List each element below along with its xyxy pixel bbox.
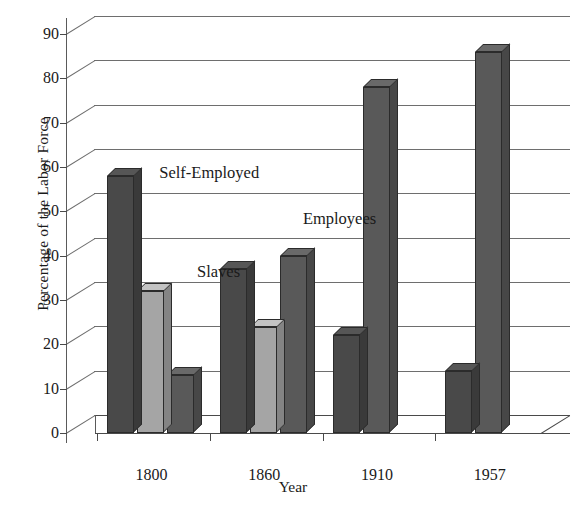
- bar-side-face: [501, 43, 510, 433]
- x-axis-title: Year: [0, 478, 586, 496]
- depth-connector: [66, 105, 96, 124]
- bar-front-face: [220, 269, 247, 433]
- bar-front-face: [107, 176, 134, 433]
- bar-self-employed-1800: [107, 176, 134, 433]
- plot-area: 0102030405060708090 Self-EmployedSlavesE…: [66, 18, 570, 443]
- y-tick-mark: [60, 34, 67, 35]
- bar-front-face: [445, 371, 472, 433]
- y-tick-label: 0: [51, 424, 59, 442]
- depth-connector: [66, 326, 96, 345]
- y-tick-label: 30: [43, 291, 59, 309]
- depth-connector: [66, 371, 96, 390]
- annotation-self-employed: Self-Employed: [159, 163, 259, 183]
- bar-side-face: [133, 167, 142, 433]
- bar-self-employed-1957: [445, 371, 472, 433]
- bar-side-face: [163, 282, 172, 433]
- y-tick-label: 70: [43, 113, 59, 131]
- bar-side-face: [246, 260, 255, 433]
- y-tick-mark: [60, 344, 67, 345]
- y-tick-mark: [60, 256, 67, 257]
- floor-right-edge: [541, 415, 571, 434]
- y-tick-label: 90: [43, 25, 59, 43]
- bar-side-face: [306, 247, 315, 433]
- annotation-employees: Employees: [303, 209, 376, 229]
- depth-connector: [66, 238, 96, 257]
- x-tick-mark: [210, 433, 211, 441]
- depth-connector: [66, 16, 96, 35]
- bar-side-face: [471, 362, 480, 433]
- bar-side-face: [193, 367, 202, 433]
- depth-connector: [66, 149, 96, 168]
- bar-chart: Percentage of the Labor Force 0102030405…: [0, 0, 586, 505]
- floor-front-edge: [95, 433, 570, 434]
- y-axis-line: [66, 18, 67, 443]
- y-tick-label: 10: [43, 379, 59, 397]
- bar-side-face: [359, 327, 368, 433]
- bar-side-face: [276, 318, 285, 433]
- depth-connector: [66, 415, 96, 434]
- depth-connector: [66, 60, 96, 79]
- y-tick-mark: [60, 167, 67, 168]
- x-tick-mark: [97, 433, 98, 441]
- y-axis-base: [95, 415, 96, 433]
- y-tick-mark: [60, 389, 67, 390]
- annotation-slaves: Slaves: [197, 262, 240, 282]
- y-tick-mark: [60, 433, 67, 434]
- bar-side-face: [389, 79, 398, 433]
- x-tick-mark: [435, 433, 436, 441]
- y-tick-label: 40: [43, 246, 59, 264]
- y-tick-label: 50: [43, 202, 59, 220]
- bar-self-employed-1910: [333, 335, 360, 433]
- depth-connector: [66, 282, 96, 301]
- y-tick-mark: [60, 78, 67, 79]
- y-tick-label: 80: [43, 69, 59, 87]
- y-tick-mark: [60, 300, 67, 301]
- y-tick-mark: [60, 211, 67, 212]
- y-tick-mark: [60, 123, 67, 124]
- bar-front-face: [333, 335, 360, 433]
- bar-self-employed-1860: [220, 269, 247, 433]
- x-tick-mark: [323, 433, 324, 441]
- y-tick-label: 20: [43, 335, 59, 353]
- depth-connector: [66, 193, 96, 212]
- y-tick-label: 60: [43, 158, 59, 176]
- gridline: [94, 16, 570, 17]
